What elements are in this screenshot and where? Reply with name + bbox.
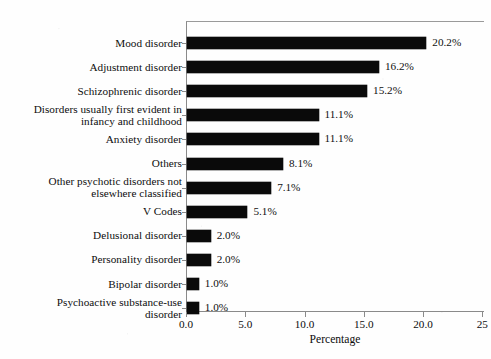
bar-row-label: Anxiety disorder (0, 133, 182, 145)
x-axis-tick-label: 0.0 (179, 318, 193, 331)
y-axis-tick (182, 188, 186, 189)
bar[interactable] (187, 206, 247, 218)
x-axis-tick (245, 312, 246, 317)
bar-row-label-line: Other psychotic disorders not (0, 175, 182, 187)
y-axis-tick (182, 212, 186, 213)
x-axis-tick-label: 20.0 (413, 318, 433, 331)
bar-row: Disorders usually first evident ininfanc… (0, 102, 491, 128)
bar-value-label: 15.2% (373, 83, 402, 97)
bar-row-label: Others (0, 157, 182, 169)
bar-chart-figure: Mood disorder20.2%Adjustment disorder16.… (0, 0, 491, 359)
bar-value-label: 16.2% (385, 59, 414, 73)
bar[interactable] (187, 133, 319, 145)
bar-row: Bipolar disorder1.0% (0, 271, 491, 297)
bar-row-label: Psychoactive substance-usedisorder (0, 296, 182, 320)
x-axis-tick-label: 10.0 (295, 318, 315, 331)
bar-row: Others8.1% (0, 151, 491, 177)
bar-row-label-line: disorder (0, 308, 182, 320)
bar-row-label-line: elsewhere classified (0, 187, 182, 199)
bar-track: 8.1% (187, 151, 485, 177)
bar-row: Other psychotic disorders notelsewhere c… (0, 175, 491, 201)
bar-value-label: 2.0% (217, 228, 240, 242)
bar-track: 1.0% (187, 271, 485, 297)
bar-row-label: Adjustment disorder (0, 61, 182, 73)
bar-row-label: Bipolar disorder (0, 278, 182, 290)
x-axis-tick (305, 312, 306, 317)
x-axis-tick (364, 312, 365, 317)
x-axis-title: Percentage (186, 333, 484, 346)
bar-row: Schizophrenic disorder15.2% (0, 78, 491, 104)
bar-row-label-line: infancy and childhood (0, 115, 182, 127)
bar[interactable] (187, 230, 211, 242)
bar[interactable] (187, 85, 367, 97)
bar-row: Personality disorder2.0% (0, 247, 491, 273)
y-axis-tick (182, 139, 186, 140)
bar-track: 11.1% (187, 102, 485, 128)
bar-value-label: 2.0% (217, 252, 240, 266)
y-axis-tick (182, 115, 186, 116)
bar[interactable] (187, 158, 283, 170)
bar-value-label: 11.1% (325, 131, 353, 145)
y-axis-tick (182, 284, 186, 285)
y-axis-tick (182, 308, 186, 309)
bar-value-label: 5.1% (253, 204, 276, 218)
bar-row: Anxiety disorder11.1% (0, 126, 491, 152)
bar-value-label: 20.2% (432, 35, 461, 49)
bar-row: Mood disorder20.2% (0, 30, 491, 56)
bar-row-label-line: Disorders usually first evident in (0, 103, 182, 115)
bar-row-label: Other psychotic disorders notelsewhere c… (0, 175, 182, 199)
bar-value-label: 1.0% (205, 300, 228, 314)
bar-track: 15.2% (187, 78, 485, 104)
y-axis-tick (182, 67, 186, 68)
bar[interactable] (187, 254, 211, 266)
x-axis-tick-label: 15.0 (354, 318, 374, 331)
x-axis-tick-label: 5.0 (238, 318, 252, 331)
bar-value-label: 11.1% (325, 107, 353, 121)
bar-row-label: Mood disorder (0, 37, 182, 49)
bar-row-label-line: Psychoactive substance-use (0, 296, 182, 308)
bar[interactable] (187, 61, 379, 73)
bar[interactable] (187, 109, 319, 121)
bar-row: Delusional disorder2.0% (0, 223, 491, 249)
bar[interactable] (187, 182, 271, 194)
x-axis-tick (186, 312, 187, 317)
bar-track: 20.2% (187, 30, 485, 56)
bar[interactable] (187, 37, 426, 49)
bar-row-label: Delusional disorder (0, 229, 182, 241)
y-axis-tick (182, 260, 186, 261)
y-axis-tick (182, 91, 186, 92)
x-axis-tick (423, 312, 424, 317)
x-axis-tick-label: 25 (477, 318, 488, 331)
bar-value-label: 7.1% (277, 180, 300, 194)
bar-track: 7.1% (187, 175, 485, 201)
y-axis-tick (182, 236, 186, 237)
x-axis-tick (482, 312, 483, 317)
bar-track: 11.1% (187, 126, 485, 152)
bar-track: 16.2% (187, 54, 485, 80)
bar[interactable] (187, 302, 199, 314)
bar-row: V Codes5.1% (0, 199, 491, 225)
bar-row-label: Schizophrenic disorder (0, 85, 182, 97)
bar[interactable] (187, 278, 199, 290)
bar-track: 5.1% (187, 199, 485, 225)
bar-row-label: Disorders usually first evident ininfanc… (0, 103, 182, 127)
bar-row: Adjustment disorder16.2% (0, 54, 491, 80)
bar-row-label: V Codes (0, 205, 182, 217)
bar-track: 2.0% (187, 223, 485, 249)
bar-track: 2.0% (187, 247, 485, 273)
y-axis-tick (182, 43, 186, 44)
bar-value-label: 1.0% (205, 276, 228, 290)
bar-row-label: Personality disorder (0, 253, 182, 265)
bar-track: 1.0% (187, 295, 485, 321)
bar-value-label: 8.1% (289, 156, 312, 170)
y-axis-tick (182, 164, 186, 165)
